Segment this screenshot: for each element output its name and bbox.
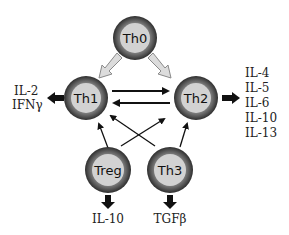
cytokine-label: IL-6 bbox=[245, 96, 269, 110]
output-arrow-th1 bbox=[47, 92, 64, 104]
cytokine-treg: IL-10 bbox=[92, 212, 124, 226]
cell-th1: Th1 bbox=[64, 76, 108, 120]
cell-label-th3: Th3 bbox=[157, 163, 182, 178]
arrow-th3-to-th2 bbox=[180, 124, 187, 147]
cytokine-label: IL-2 bbox=[14, 84, 38, 98]
cytokine-label: IL-5 bbox=[245, 81, 269, 95]
cytokines-th2: IL-4 IL-5 IL-6 IL-10 IL-13 bbox=[245, 66, 277, 140]
cell-label-th2: Th2 bbox=[183, 91, 208, 106]
cell-label-th1: Th1 bbox=[73, 91, 98, 106]
cytokine-label: IL-4 bbox=[245, 66, 270, 80]
cytokine-label: IFNγ bbox=[12, 98, 43, 112]
cell-th2: Th2 bbox=[174, 76, 218, 120]
cytokine-label: IL-10 bbox=[245, 111, 277, 125]
cell-treg: Treg bbox=[85, 147, 131, 193]
hollow-arrow-th0-th2 bbox=[148, 53, 171, 78]
arrow-treg-to-th2 bbox=[121, 119, 164, 146]
output-arrow-treg bbox=[101, 195, 115, 209]
arrow-treg-to-th1 bbox=[99, 124, 108, 148]
t-helper-diagram: Th0 Th1 Th2 Treg Th3 IL-2 IFNγ IL-4 IL-5… bbox=[0, 0, 289, 235]
cytokines-th1: IL-2 IFNγ bbox=[12, 84, 43, 112]
hollow-arrow-th0-th1 bbox=[99, 53, 122, 78]
cytokine-th3: TGFβ bbox=[154, 212, 187, 226]
cell-th3: Th3 bbox=[147, 147, 193, 193]
output-arrow-th2 bbox=[222, 92, 240, 104]
cytokine-label: IL-13 bbox=[245, 126, 277, 140]
output-arrow-th3 bbox=[163, 195, 177, 209]
arrow-th3-to-th1 bbox=[111, 116, 155, 146]
cell-label-th0: Th0 bbox=[122, 31, 147, 46]
cell-th0: Th0 bbox=[113, 16, 157, 60]
cell-label-treg: Treg bbox=[93, 163, 121, 178]
